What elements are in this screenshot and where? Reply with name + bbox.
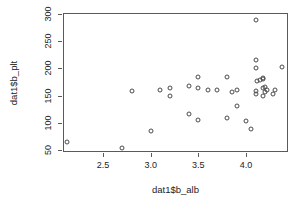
data-point: [224, 116, 229, 121]
x-axis-tick: [246, 153, 247, 157]
y-axis-tick-label: 300: [44, 7, 53, 22]
y-axis-tick: [58, 96, 62, 97]
x-axis-tick-label: 4.0: [240, 161, 253, 170]
data-point: [270, 92, 275, 97]
data-point: [186, 111, 191, 116]
plot-area-box: [63, 13, 288, 152]
x-axis-tick-label: 3.5: [192, 161, 205, 170]
y-axis-tick-label: 50: [44, 145, 53, 155]
y-axis-tick: [58, 41, 62, 42]
y-axis-tick: [58, 123, 62, 124]
data-point: [196, 86, 201, 91]
data-point: [234, 87, 239, 92]
x-axis-tick-label: 3.0: [144, 161, 157, 170]
y-axis-tick-label: 250: [44, 34, 53, 49]
y-axis-tick: [58, 150, 62, 151]
scatter-plot-figure: 2.53.03.54.0 50100150200250300 dat1$b_al…: [0, 0, 303, 213]
data-point: [280, 65, 285, 70]
data-point: [272, 88, 277, 93]
data-point: [205, 88, 210, 93]
x-axis-tick-label: 2.5: [97, 161, 110, 170]
data-point: [224, 74, 229, 79]
y-axis-title: dat1$b_plt: [9, 60, 19, 104]
y-axis-tick-label: 200: [44, 61, 53, 76]
data-point: [253, 65, 258, 70]
data-point: [148, 129, 153, 134]
x-axis-tick: [151, 153, 152, 157]
data-point: [129, 89, 134, 94]
y-axis-tick-label: 100: [44, 115, 53, 130]
data-point: [158, 87, 163, 92]
data-point: [64, 140, 69, 145]
data-point: [167, 94, 172, 99]
x-axis-tick: [198, 153, 199, 157]
data-point: [215, 88, 220, 93]
x-axis-tick: [103, 153, 104, 157]
y-axis-tick: [58, 68, 62, 69]
data-point: [167, 85, 172, 90]
x-axis-title: dat1$b_alb: [152, 185, 199, 195]
data-point: [196, 117, 201, 122]
data-point: [120, 145, 125, 150]
data-point: [234, 103, 239, 108]
data-point: [253, 58, 258, 63]
data-point: [253, 92, 258, 97]
data-point: [248, 127, 253, 132]
data-point: [186, 83, 191, 88]
data-point: [265, 87, 270, 92]
data-point: [261, 77, 266, 82]
data-point: [253, 17, 258, 22]
data-point: [196, 74, 201, 79]
y-axis-tick: [58, 14, 62, 15]
data-point: [244, 118, 249, 123]
y-axis-tick-label: 150: [44, 88, 53, 103]
data-point: [261, 94, 266, 99]
